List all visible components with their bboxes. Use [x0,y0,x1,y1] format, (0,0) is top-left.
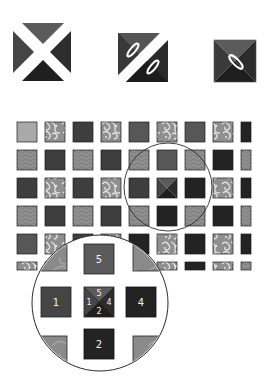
grid-square-texture [129,150,149,170]
grid-square-very_dark [241,234,251,254]
grid-square-very_dark [185,234,205,254]
center-label-top: 5 [96,289,101,298]
center-label-bottom: 2 [96,307,101,316]
grid-square-light [17,122,37,142]
grid-square-texture [241,150,251,170]
grid-square-paisley [157,122,177,142]
label-2: 2 [96,339,102,350]
grid-square-mid [157,150,177,170]
label-1: 1 [53,297,59,308]
grid-square-very_dark [213,150,233,170]
grid-square-paisley [17,262,37,270]
grid-square-dark [17,178,37,198]
grid-square-texture [185,150,205,170]
grid-square-paisley [213,234,233,254]
grid-square-paisley [157,234,177,254]
grid-square-mid [17,234,37,254]
grid-square-texture [73,206,93,226]
grid-square-very_dark [241,122,251,142]
grid-square-paisley [157,262,177,270]
grid-square-paisley [101,122,121,142]
grid-square-texture [185,206,205,226]
grid-square-very_dark [185,262,205,270]
grid-square-dark [101,206,121,226]
grid-square-very_dark [185,178,205,198]
grid-square-dark [73,122,93,142]
grid-square-very_dark [213,206,233,226]
label-4: 4 [138,297,144,308]
triangle-top [22,23,64,44]
grid-square-dark [101,150,121,170]
triangle-left [13,31,34,73]
grid-square-paisley [101,178,121,198]
step-1-four-triangles [13,23,71,81]
grid-square-dark [45,206,65,226]
grid-square-paisley [213,262,233,270]
quilt-block-diagram: 5 1 4 2 5 1 4 2 [0,0,268,376]
center-label-left: 1 [86,298,91,307]
grid-square-paisley [45,122,65,142]
grid-x-block [157,178,177,198]
triangle-bottom [22,60,64,81]
grid-square-texture [129,206,149,226]
step-2-half-square-triangles [118,33,168,82]
corner-square-br [133,336,164,367]
magnified-detail: 5 1 4 2 5 1 4 2 [32,235,168,371]
grid-square-very_dark [157,206,177,226]
grid-square-dark [73,178,93,198]
step-3-sewn-block [214,40,256,82]
grid-square-paisley [213,178,233,198]
grid-square-paisley [213,122,233,142]
grid-square-dark [129,178,149,198]
grid-square-paisley [45,178,65,198]
triangle-right [50,31,71,73]
grid-square-texture [73,150,93,170]
grid-square-texture [241,206,251,226]
label-5: 5 [96,254,102,265]
grid-square-very_dark [241,178,251,198]
grid-square-mid [185,122,205,142]
center-x-block: 5 1 4 2 [84,287,114,317]
center-label-right: 4 [106,298,111,307]
grid-square-texture [17,206,37,226]
grid-square-texture [17,150,37,170]
grid-square-texture [241,262,251,270]
grid-square-mid [129,122,149,142]
grid-square-dark [45,150,65,170]
corner-square-bl [36,336,67,367]
